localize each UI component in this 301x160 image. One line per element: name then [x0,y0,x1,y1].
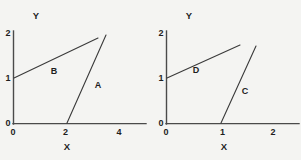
left-plot-line-a-label: A [95,80,102,90]
left-plot-x-axis-title: X [64,141,71,152]
left-plot-line-a [67,35,106,123]
right-plot-line-c-label: C [242,86,249,96]
left-plot-ytick-1: 1 [5,73,10,83]
right-plot-line-d [167,45,240,78]
right-plot-xtick-2: 2 [270,127,275,137]
left-plot-line-b-label: B [51,66,58,76]
figure-canvas: Y X 2 1 0 0 2 4 B A Y X [0,0,301,160]
right-plot-xtick-0: 0 [163,127,168,137]
two-panel-line-plot-figure: Y X 2 1 0 0 2 4 B A Y X [0,0,301,160]
left-plot-xtick-0: 0 [10,127,15,137]
left-plot-y-axis-title: Y [33,10,40,21]
left-plot-xtick-4: 4 [116,127,121,137]
right-plot-line-d-label: D [193,65,200,75]
right-plot-x-axis-title: X [221,141,228,152]
left-plot-xtick-2: 2 [63,127,68,137]
right-plot-ytick-2: 2 [158,28,163,38]
left-plot-panel: Y X 2 1 0 0 2 4 B A [5,10,146,152]
right-plot-panel: Y X 2 1 0 0 1 2 D C [158,10,299,152]
right-plot-line-c [221,46,256,123]
left-plot-ytick-2: 2 [5,28,10,38]
right-plot-y-axis-title: Y [186,10,193,21]
right-plot-ytick-1: 1 [158,73,163,83]
right-plot-xtick-1: 1 [220,127,225,137]
